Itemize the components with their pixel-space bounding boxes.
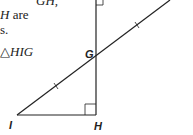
label-H: H (94, 120, 102, 132)
congruence-tick-upper (135, 22, 139, 28)
label-G: G (85, 48, 94, 60)
top-right-angle-marker (96, 0, 103, 5)
label-I: I (9, 119, 12, 131)
right-angle-marker-H (85, 104, 96, 115)
triangle-diagram (0, 0, 193, 135)
